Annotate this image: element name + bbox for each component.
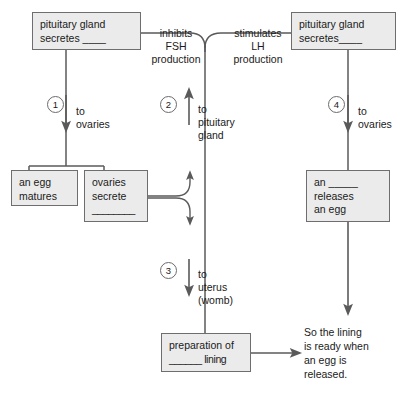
step-number-2: 2 <box>160 96 177 113</box>
box-line: secretes ____ <box>40 32 134 46</box>
box-line: matures <box>19 190 71 204</box>
box-an-releases-an-egg: an _____ releases an egg <box>306 170 390 222</box>
conclusion-text: So the lining is ready when an egg is re… <box>304 325 404 381</box>
label-line: FSH <box>166 40 187 52</box>
box-line: an _____ <box>314 176 383 190</box>
label-to-ovaries-step1: to ovaries <box>76 92 110 131</box>
step-number-1: 1 <box>47 96 64 113</box>
box-line: an egg <box>314 203 383 217</box>
label-inhibits-fsh-production: inhibits FSH production <box>146 14 206 66</box>
box-pituitary-gland-secretes-left: pituitary gland secretes ____ <box>32 12 141 50</box>
label-line: (womb) <box>198 294 233 306</box>
box-line: secretes____ <box>299 32 389 46</box>
box-line: releases <box>314 190 383 204</box>
box-line: pituitary gland <box>299 18 389 32</box>
label-line: to <box>198 103 207 115</box>
box-ovaries-secrete: ovaries secrete ________ <box>84 170 148 222</box>
box-blank-line: ________ <box>92 203 141 217</box>
label-line: LH <box>251 40 264 52</box>
label-to-ovaries-step4: to ovaries <box>358 92 392 131</box>
label-line: stimulates <box>234 27 281 39</box>
label-line: ovaries <box>358 118 392 130</box>
label-line: to <box>76 105 85 117</box>
label-line: production <box>233 53 282 65</box>
box-line: pituitary gland <box>40 18 134 32</box>
box-preparation-of-lining: preparation of ______ lining <box>161 333 251 372</box>
label-line: pituitary <box>198 116 235 128</box>
box-line: secrete <box>92 190 141 204</box>
step-number-3: 3 <box>160 262 177 279</box>
arrow-ovaries-up-branch <box>148 175 190 196</box>
box-pituitary-gland-secretes-right: pituitary gland secretes____ <box>291 12 396 50</box>
label-line: to <box>358 105 367 117</box>
box-an-egg-matures: an egg matures <box>11 170 78 206</box>
label-line: to <box>198 268 207 280</box>
label-line: ovaries <box>76 118 110 130</box>
label-stimulates-lh-production: stimulates LH production <box>226 14 290 66</box>
arrow-ovaries-down-branch <box>148 198 190 221</box>
label-to-pituitary-gland-step2: to pituitary gland <box>198 90 235 142</box>
label-to-uterus-womb-step3: to uterus (womb) <box>198 255 233 307</box>
box-line: an egg <box>19 176 71 190</box>
label-line: production <box>151 53 200 65</box>
diagram-canvas: pituitary gland secretes ____ pituitary … <box>0 0 406 397</box>
label-line: gland <box>198 129 224 141</box>
step-number-4: 4 <box>328 96 345 113</box>
box-line: ovaries <box>92 176 141 190</box>
label-line: uterus <box>198 281 227 293</box>
box-blank-line: ______ lining <box>169 353 244 367</box>
box-line: preparation of <box>169 339 244 353</box>
label-line: inhibits <box>160 27 193 39</box>
